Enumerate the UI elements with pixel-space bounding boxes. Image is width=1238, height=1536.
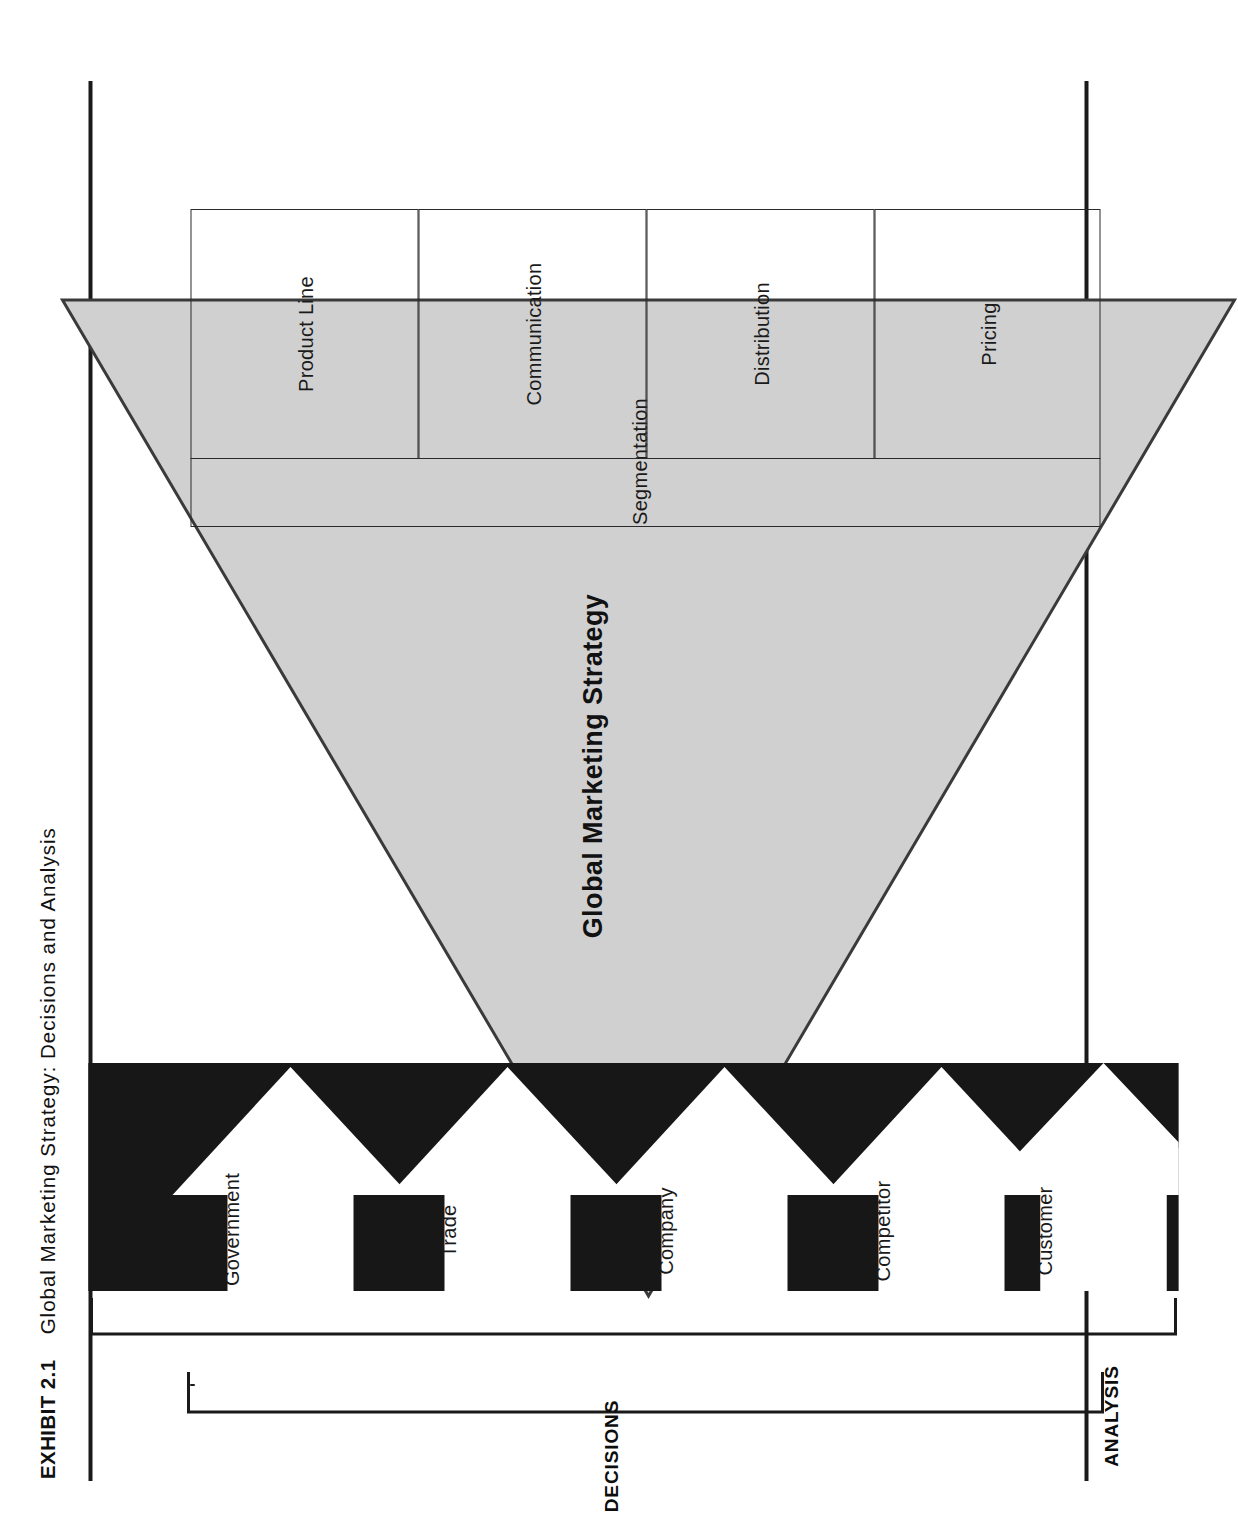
decision-label-distribution: Distribution <box>750 209 773 459</box>
decisions-bracket <box>186 1370 1104 1418</box>
decision-label-product-line: Product Line <box>294 209 317 459</box>
analysis-bracket <box>88 1296 1178 1340</box>
group-label-decisions: DECISIONS <box>600 1376 622 1536</box>
analysis-label-government: Government <box>220 1176 243 1286</box>
segmentation-label: Segmentation <box>628 459 651 525</box>
analysis-band <box>88 1063 1178 1291</box>
analysis-label-company: Company <box>654 1176 677 1286</box>
group-label-analysis: ANALYSIS <box>1100 1296 1122 1536</box>
diagram-center-title: Global Marketing Strategy <box>577 556 608 976</box>
analysis-label-competitor: Competitor <box>871 1176 894 1286</box>
decision-label-communication: Communication <box>522 209 545 459</box>
analysis-label-customer: Customer <box>1033 1176 1056 1286</box>
analysis-label-trade: Trade <box>437 1176 460 1286</box>
decision-label-pricing: Pricing <box>977 209 1000 459</box>
